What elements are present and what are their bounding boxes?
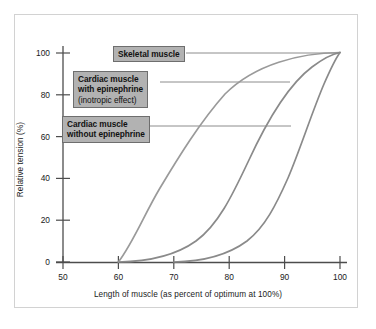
x-tick-label-70: 70 xyxy=(161,272,187,282)
callout-skeletal-muscle: Skeletal muscle xyxy=(113,46,185,62)
callout-cardiac-without-line1: Cardiac muscle xyxy=(67,119,128,129)
x-tick-label-60: 60 xyxy=(105,272,131,282)
x-tick-label-80: 80 xyxy=(216,272,242,282)
curve-cardiac-with-epinephrine xyxy=(118,53,340,263)
callout-skeletal-label: Skeletal muscle xyxy=(118,49,180,59)
y-tick-label-100: 100 xyxy=(24,48,50,58)
callout-cardiac-with-line1: Cardiac muscle xyxy=(78,74,139,84)
x-tick-label-50: 50 xyxy=(50,272,76,282)
curve-cardiac-without-epinephrine xyxy=(174,53,340,263)
x-tick-label-100: 100 xyxy=(327,272,353,282)
y-tick-label-80: 80 xyxy=(24,90,50,100)
callout-cardiac-without-line2: without epinephrine xyxy=(67,129,145,139)
y-tick-label-60: 60 xyxy=(24,132,50,142)
y-tick-label-40: 40 xyxy=(24,173,50,183)
callout-cardiac-with-sub: (inotropic effect) xyxy=(78,95,143,105)
y-tick-label-20: 20 xyxy=(24,215,50,225)
x-tick-label-90: 90 xyxy=(272,272,298,282)
figure-container: 100 80 60 40 20 0 50 60 70 80 90 100 Len… xyxy=(0,0,376,329)
y-axis-title: Relative tension (%) xyxy=(16,90,25,230)
curve-skeletal-muscle xyxy=(118,53,340,263)
callout-cardiac-with-epinephrine: Cardiac muscle with epinephrine (inotrop… xyxy=(73,71,148,108)
y-tick-label-0: 0 xyxy=(24,257,50,267)
x-axis-title: Length of muscle (as percent of optimum … xyxy=(0,290,376,299)
callout-cardiac-with-line2: with epinephrine xyxy=(78,84,143,94)
callout-cardiac-without-epinephrine: Cardiac muscle without epinephrine xyxy=(62,116,150,143)
